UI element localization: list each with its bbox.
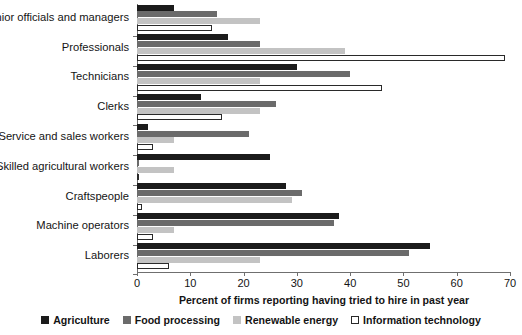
bar — [137, 5, 174, 11]
bar — [137, 11, 217, 17]
bar — [137, 64, 297, 70]
bar — [137, 48, 345, 54]
x-axis-title: Percent of firms reporting having tried … — [137, 294, 511, 306]
bar — [137, 234, 153, 240]
x-axis-tick-label: 20 — [237, 278, 249, 289]
bar — [137, 227, 174, 233]
x-axis-line — [137, 272, 511, 273]
bar — [137, 131, 249, 137]
x-axis-tick-label: 50 — [397, 278, 409, 289]
x-axis-tick-label: 60 — [451, 278, 463, 289]
category-label: Machine operators — [36, 220, 129, 231]
bar — [137, 220, 334, 226]
legend-item: Agriculture — [41, 315, 110, 326]
bar — [137, 174, 139, 180]
bar — [137, 197, 292, 203]
bar-group: Service and sales workers — [137, 124, 510, 150]
bar-group: Machine operators — [137, 213, 510, 239]
category-label: Clerks — [97, 101, 129, 112]
x-axis-tick-label: 0 — [134, 278, 140, 289]
x-axis-tick-label: 10 — [184, 278, 196, 289]
x-axis-tick — [244, 272, 245, 276]
category-label: Skilled agricultural workers — [0, 161, 129, 172]
filled-lightgray-swatch — [233, 316, 241, 324]
legend-label: Agriculture — [53, 315, 110, 326]
category-label: Senior officials and managers — [0, 12, 129, 23]
bar — [137, 41, 260, 47]
bar — [137, 167, 174, 173]
bar — [137, 160, 139, 166]
bar — [137, 78, 260, 84]
x-axis-tick — [190, 272, 191, 276]
bar — [137, 114, 222, 120]
x-axis-tick — [457, 272, 458, 276]
filled-darkgray-swatch — [123, 316, 131, 324]
bar — [137, 124, 148, 130]
bar — [137, 204, 142, 210]
filled-black-swatch — [41, 316, 49, 324]
bar — [137, 34, 228, 40]
bar — [137, 55, 505, 61]
chart-legend: AgricultureFood processingRenewable ener… — [0, 315, 522, 326]
plot-area: Senior officials and managersProfessiona… — [137, 4, 510, 272]
bar — [137, 101, 276, 107]
bar — [137, 190, 302, 196]
category-label: Professionals — [62, 42, 129, 53]
x-axis-tick-label: 40 — [344, 278, 356, 289]
bar — [137, 25, 212, 31]
bar-group: Skilled agricultural workers — [137, 154, 510, 180]
category-label: Laborers — [85, 250, 129, 261]
bar — [137, 137, 174, 143]
bar-group: Laborers — [137, 243, 510, 269]
bar — [137, 250, 409, 256]
x-axis-tick — [297, 272, 298, 276]
bar — [137, 108, 260, 114]
bar — [137, 213, 339, 219]
category-label: Technicians — [71, 71, 129, 82]
legend-label: Information technology — [363, 315, 481, 326]
category-label: Service and sales workers — [0, 131, 129, 142]
legend-item: Renewable energy — [233, 315, 338, 326]
bar — [137, 94, 201, 100]
outlined-white-swatch — [351, 316, 359, 324]
bar-group: Technicians — [137, 64, 510, 90]
x-axis-tick-label: 30 — [291, 278, 303, 289]
x-axis-tick-label: 70 — [504, 278, 516, 289]
bar — [137, 243, 430, 249]
bar-chart: Senior officials and managersProfessiona… — [0, 0, 522, 335]
x-axis-tick — [350, 272, 351, 276]
bar — [137, 154, 270, 160]
bar-group: Clerks — [137, 94, 510, 120]
bar — [137, 144, 153, 150]
legend-label: Renewable energy — [245, 315, 338, 326]
bar — [137, 183, 286, 189]
bar — [137, 85, 382, 91]
x-axis-tick — [403, 272, 404, 276]
category-label: Craftspeople — [66, 191, 129, 202]
bar-group: Senior officials and managers — [137, 5, 510, 31]
legend-item: Food processing — [123, 315, 220, 326]
legend-item: Information technology — [351, 315, 481, 326]
legend-label: Food processing — [135, 315, 220, 326]
bar-group: Craftspeople — [137, 183, 510, 209]
x-axis-tick — [137, 272, 138, 276]
bar-group: Professionals — [137, 34, 510, 60]
bar — [137, 18, 260, 24]
x-axis-tick — [510, 272, 511, 276]
bar — [137, 257, 260, 263]
bar — [137, 71, 350, 77]
bar — [137, 263, 169, 269]
